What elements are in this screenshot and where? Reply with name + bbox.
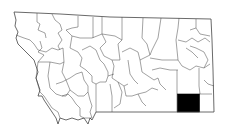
map-svg bbox=[0, 0, 226, 131]
montana-county-map bbox=[0, 0, 226, 131]
highlighted-county-powder-river bbox=[178, 94, 200, 112]
